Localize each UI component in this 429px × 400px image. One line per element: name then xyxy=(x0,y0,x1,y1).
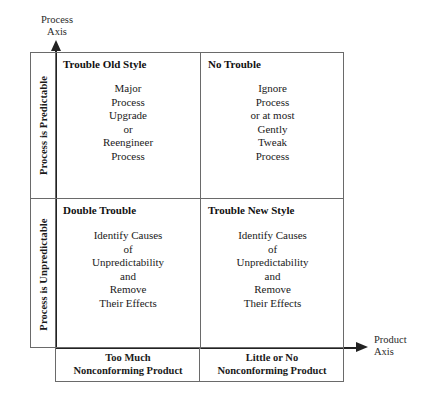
quadrant-trouble-new-style: Trouble New Style Identify Causes of Unp… xyxy=(200,198,344,349)
row-label-column: Process is Predictable Process is Unpred… xyxy=(31,53,56,347)
process-axis-label: Process Axis xyxy=(26,14,88,38)
quadrant-body: Major Process Upgrade or Reengineer Proc… xyxy=(63,82,193,163)
quadrant-title: No Trouble xyxy=(208,58,337,71)
column-footer-right: Little or No Nonconforming Product xyxy=(199,348,344,381)
quadrant-title: Double Trouble xyxy=(63,204,193,217)
row-label-predictable-text: Process is Predictable xyxy=(38,76,49,175)
column-footer-left: Too Much Nonconforming Product xyxy=(56,348,200,381)
quadrant-no-trouble: No Trouble Ignore Process or at most Gen… xyxy=(200,53,344,198)
quadrant-double-trouble: Double Trouble Identify Causes of Unpred… xyxy=(56,198,200,349)
quadrant-grid: Trouble Old Style Major Process Upgrade … xyxy=(56,53,345,349)
product-axis-label: Product Axis xyxy=(374,334,426,358)
column-footer-row: Too Much Nonconforming Product Little or… xyxy=(55,348,344,382)
matrix-box: Process is Predictable Process is Unpred… xyxy=(30,52,344,348)
quadrant-body: Identify Causes of Unpredictability and … xyxy=(63,229,193,310)
row-label-unpredictable-text: Process is Unpredictable xyxy=(38,218,49,330)
quadrant-body: Ignore Process or at most Gently Tweak P… xyxy=(208,82,337,163)
quadrant-title: Trouble New Style xyxy=(208,204,337,217)
right-arrow-icon xyxy=(356,342,368,352)
quadrant-title: Trouble Old Style xyxy=(63,58,193,71)
row-label-unpredictable: Process is Unpredictable xyxy=(31,198,56,349)
quadrant-body: Identify Causes of Unpredictability and … xyxy=(208,229,337,310)
process-product-matrix-diagram: Process Axis Product Axis Process is Pre… xyxy=(0,0,429,400)
row-label-predictable: Process is Predictable xyxy=(31,53,56,198)
quadrant-trouble-old-style: Trouble Old Style Major Process Upgrade … xyxy=(56,53,200,198)
